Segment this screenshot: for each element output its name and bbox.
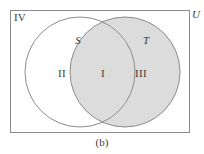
set-label-t: T [143, 35, 149, 46]
region-label-iv: IV [14, 12, 26, 23]
universe-label: U [192, 9, 200, 20]
region-label-iii: III [135, 68, 147, 79]
region-label-ii: II [58, 68, 66, 79]
venn-diagram-figure: U IV S T II I III (b) [0, 0, 204, 154]
region-label-i: I [101, 68, 105, 79]
set-label-s: S [75, 35, 81, 46]
figure-caption: (b) [0, 136, 204, 148]
